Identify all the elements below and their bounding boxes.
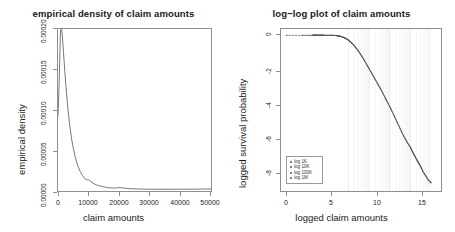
x-tick-left-3: 30000 <box>139 199 158 206</box>
figure-canvas: empirical density of claim amounts empir… <box>0 0 455 232</box>
x-tickmark-left-1 <box>88 192 89 196</box>
legend-marker-icon <box>290 177 292 179</box>
panel-empirical-density: empirical density of claim amounts empir… <box>0 0 227 232</box>
x-tick-left-5: 50000 <box>200 199 219 206</box>
y-tick-right-3: -6 <box>265 130 272 148</box>
y-tick-left-4: 0.00020 <box>40 14 47 48</box>
panel-title-left: empirical density of claim amounts <box>0 8 227 19</box>
x-axis-label-right: logged claim amounts <box>228 212 455 223</box>
x-tickmark-right-0 <box>286 192 287 196</box>
x-tickmark-left-3 <box>149 192 150 196</box>
x-tick-left-0: 0 <box>56 199 60 206</box>
x-tickmark-right-3 <box>422 192 423 196</box>
y-axis-label-right: logged survival probability <box>237 79 248 188</box>
legend-marker-icon <box>290 161 292 163</box>
minor-gridlines <box>348 29 430 191</box>
legend-marker-icon <box>290 166 292 168</box>
plot-area-left <box>57 28 212 192</box>
x-axis-label-left: claim amounts <box>0 212 227 223</box>
x-tick-right-2: 10 <box>373 199 381 206</box>
x-tickmark-left-4 <box>180 192 181 196</box>
legend-item-3: log 1M <box>290 175 319 180</box>
y-tick-left-2: 0.00010 <box>40 96 47 130</box>
x-tickmark-right-2 <box>377 192 378 196</box>
legend-label-3: log 1M <box>294 175 308 180</box>
y-tick-left-0: 0.00000 <box>40 178 47 212</box>
panel-loglog-plot: log−log plot of claim amounts logged sur… <box>228 0 455 232</box>
y-axis-label-left: empirical density <box>16 104 27 175</box>
x-tick-right-0: 0 <box>284 199 288 206</box>
density-curve <box>58 29 211 189</box>
panel-title-right: log−log plot of claim amounts <box>228 8 455 19</box>
y-tick-right-2: -4 <box>265 96 272 114</box>
y-tick-right-0: 0 <box>265 27 272 41</box>
y-tick-left-1: 0.00005 <box>40 137 47 171</box>
x-tickmark-left-5 <box>210 192 211 196</box>
density-curve-svg <box>58 29 211 191</box>
legend-box: log 1K log 10K log 100K log 1M <box>286 156 323 184</box>
x-tick-left-4: 40000 <box>170 199 189 206</box>
x-tickmark-left-2 <box>119 192 120 196</box>
y-tickmark-left-0 <box>53 192 57 193</box>
legend-marker-icon <box>290 172 292 174</box>
x-tick-right-1: 5 <box>329 199 333 206</box>
y-tick-left-3: 0.00015 <box>40 55 47 89</box>
x-tick-left-2: 20000 <box>109 199 128 206</box>
x-tick-left-1: 10000 <box>78 199 97 206</box>
x-tickmark-right-1 <box>331 192 332 196</box>
y-tick-right-4: -8 <box>265 164 272 182</box>
y-tick-right-1: -2 <box>265 62 272 80</box>
x-tickmark-left-0 <box>58 192 59 196</box>
x-tick-right-3: 15 <box>418 199 426 206</box>
